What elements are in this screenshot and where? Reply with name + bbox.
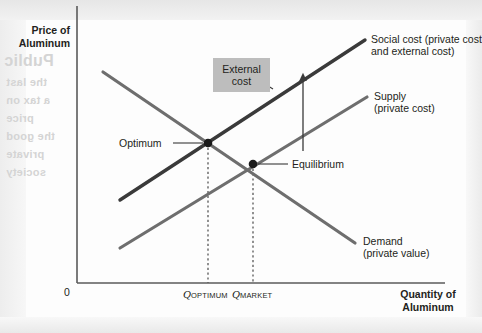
bleed-through-text: Public [4, 52, 54, 70]
label-supply: Supply (private cost) [374, 90, 435, 114]
label-social-cost: Social cost (private cost and external c… [371, 33, 482, 57]
scan-edge-bottom [0, 317, 482, 333]
y-axis-title: Price of Aluminum [14, 24, 70, 49]
external-cost-callout: External cost [213, 58, 270, 92]
x-axis-title-line1: Quantity of [383, 288, 473, 301]
label-demand: Demand (private value) [363, 235, 430, 259]
label-demand-line1: Demand [363, 235, 430, 247]
label-demand-line2: (private value) [363, 247, 430, 259]
tick-q-symbol: Q [183, 288, 191, 300]
bleed-through-text: the last [6, 76, 47, 88]
tick-q-subscript: MARKET [240, 291, 272, 300]
label-supply-line2: (private cost) [374, 102, 435, 114]
tick-q-symbol: Q [232, 288, 240, 300]
external-cost-line1: External [222, 63, 261, 75]
x-axis-title-line2: Aluminum [383, 301, 473, 314]
figure-canvas: Public the last a tax on price the good … [0, 0, 482, 333]
label-social-cost-line2: and external cost) [371, 45, 482, 57]
scan-edge-top [0, 0, 482, 20]
point-equilibrium [249, 160, 258, 169]
tick-label-q-optimum: QOPTIMUM [183, 288, 228, 300]
bleed-through-text: a tax on [6, 94, 50, 106]
y-axis-title-line2: Aluminum [14, 37, 70, 50]
tick-label-q-market: QMARKET [232, 288, 272, 300]
label-supply-line1: Supply [374, 90, 435, 102]
label-equilibrium: Equilibrium [292, 158, 344, 170]
scan-edge-right [466, 20, 482, 333]
label-optimum: Optimum [119, 137, 162, 149]
bleed-through-text: the good [6, 130, 55, 142]
tick-q-subscript: OPTIMUM [191, 291, 228, 300]
origin-label: 0 [64, 286, 70, 298]
point-optimum [204, 139, 213, 148]
bleed-through-text: private [6, 148, 44, 160]
external-cost-line2: cost [232, 75, 251, 87]
x-axis-title: Quantity of Aluminum [383, 288, 473, 313]
bleed-through-text: price [6, 112, 34, 124]
label-social-cost-line1: Social cost (private cost [371, 33, 482, 45]
bleed-through-text: society [6, 166, 46, 178]
y-axis-title-line1: Price of [14, 24, 70, 37]
